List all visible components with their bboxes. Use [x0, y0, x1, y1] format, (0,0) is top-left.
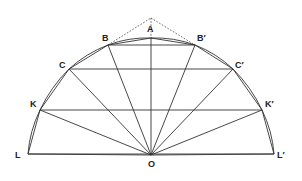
label-c: C	[59, 60, 66, 70]
label-a: A	[147, 24, 154, 34]
dashed-apex-bp	[151, 18, 195, 45]
label-cp: C′	[235, 60, 244, 70]
label-kp: K′	[265, 99, 274, 109]
label-l: L	[15, 150, 21, 160]
radius-o-b	[108, 45, 151, 155]
geometric-diagram: LKCBAB′C′K′L′ O	[0, 0, 302, 181]
point-labels: LKCBAB′C′K′L′	[15, 24, 285, 160]
center-label-o: O	[148, 159, 155, 169]
label-lp: L′	[277, 150, 285, 160]
dashed-b-apex	[108, 18, 151, 45]
label-bp: B′	[197, 33, 206, 43]
radius-o-kp	[151, 110, 262, 155]
radial-lines	[28, 38, 274, 155]
radius-o-cp	[151, 69, 233, 155]
label-b: B	[102, 33, 109, 43]
label-k: K	[30, 99, 37, 109]
radius-o-bp	[151, 45, 195, 155]
radius-o-k	[40, 110, 151, 155]
radius-o-c	[69, 69, 151, 155]
